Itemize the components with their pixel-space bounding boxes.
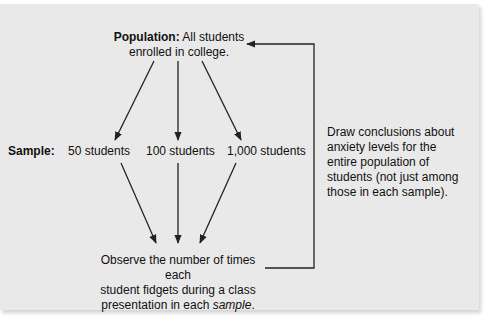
observe-line-2: student fidgets during a class [100,283,255,297]
population-text-2: enrolled in college. [129,45,229,59]
conclusion-node: Draw conclusions about anxiety levels fo… [327,125,477,200]
observe-line-3-italic: sample [213,298,252,312]
conclusion-line-4: students (not just among [327,170,458,184]
arrow-population-to-1000 [202,61,241,140]
sample-100: 100 students [146,144,215,159]
diagram-page: Population: All students enrolled in col… [0,0,490,322]
observe-line-3-suffix: . [251,298,254,312]
sample-50: 50 students [68,144,130,159]
arrow-50-to-observe [121,163,156,243]
population-node: Population: All students enrolled in col… [104,30,254,60]
conclusion-line-3: entire population of [327,155,429,169]
observe-line-3-prefix: presentation in each [101,298,212,312]
arrow-1000-to-observe [200,163,236,243]
observe-line-1: Observe the number of times each [101,253,256,282]
population-label: Population: [114,30,180,44]
sample-label: Sample: [8,144,55,158]
sample-1000: 1,000 students [227,144,306,159]
arrow-population-to-50 [115,61,154,140]
conclusion-line-2: anxiety levels for the [327,140,436,154]
conclusion-line-5: those in each sample). [327,185,448,199]
conclusion-line-1: Draw conclusions about [327,125,454,139]
population-text-1: All students [180,30,245,44]
observe-node: Observe the number of times each student… [88,253,268,313]
